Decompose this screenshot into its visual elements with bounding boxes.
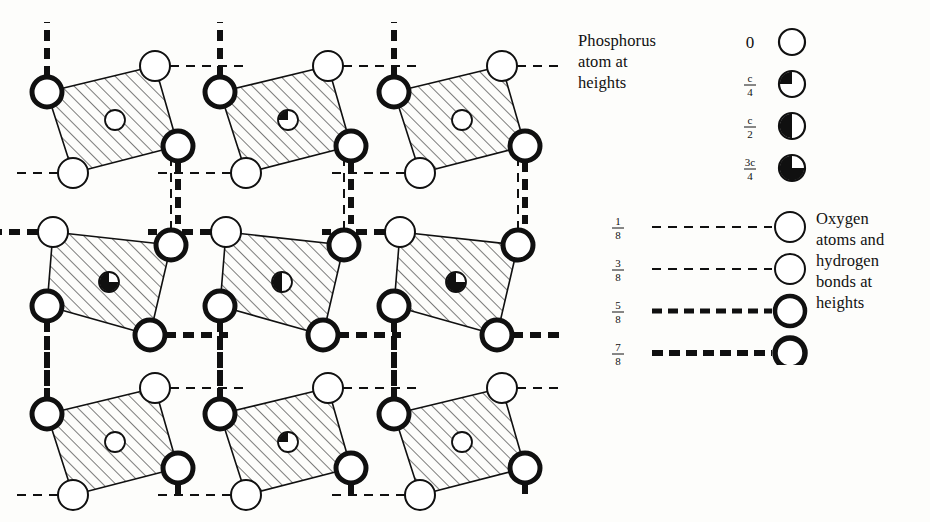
oxygen-caption-line-3: bonds at: [816, 271, 884, 292]
oxygen-atom-middle-right-bl: [379, 291, 409, 321]
oxygen-legend-height-num-3: 7: [615, 341, 621, 353]
atoms-layer: [32, 51, 540, 510]
phosphorus-legend-symbol-fill-1: [780, 72, 792, 84]
oxygen-atom-middle-right-br: [482, 320, 512, 350]
phosphorus-atom-top-left: [105, 110, 125, 130]
phosphorus-legend-height-0: 0: [746, 33, 755, 52]
oxygen-atom-top-right-tl: [379, 77, 409, 107]
oxygen-legend-symbol-1: [775, 254, 805, 284]
oxygen-atom-middle-left-bl: [32, 291, 62, 321]
phosphorus-legend-height-num-2: c: [748, 114, 753, 126]
oxygen-caption-line-4: heights: [816, 292, 884, 313]
oxygen-atom-bottom-left-bl: [58, 480, 88, 510]
oxygen-atom-top-left-bl: [58, 158, 88, 188]
oxygen-atom-bottom-right-br: [510, 453, 540, 483]
oxygen-atom-middle-left-tl: [38, 217, 68, 247]
oxygen-legend-symbol-0: [775, 212, 805, 242]
oxygen-atom-middle-center-tr: [329, 230, 359, 260]
phosphorus-legend-caption: Phosphorus atom at heights: [578, 30, 656, 93]
oxygen-atom-top-center-tl: [205, 77, 235, 107]
oxygen-caption-line-2: hydrogen: [816, 250, 884, 271]
oxygen-atom-top-right-bl: [405, 158, 435, 188]
oxygen-atom-top-center-tr: [313, 51, 343, 81]
phosphorus-atom-top-right: [452, 110, 472, 130]
oxygen-atom-middle-center-tl: [211, 217, 241, 247]
oxygen-atom-bottom-left-br: [163, 453, 193, 483]
oxygen-atom-top-left-tl: [32, 77, 62, 107]
oxygen-caption-line-1: atoms and: [816, 229, 884, 250]
oxygen-legend: Oxygen atoms and hydrogen bonds at heigh…: [816, 208, 884, 314]
oxygen-atom-top-center-bl: [231, 158, 261, 188]
oxygen-atom-top-left-br: [163, 131, 193, 161]
oxygen-atom-bottom-center-br: [336, 453, 366, 483]
oxygen-atom-middle-left-tr: [156, 230, 186, 260]
oxygen-atom-top-right-tr: [487, 51, 517, 81]
oxygen-atom-middle-center-bl: [205, 291, 235, 321]
oxygen-legend-height-den-1: 8: [615, 271, 621, 283]
figure-root: Phosphorus atom at heights 0c4c23c4 1838…: [0, 0, 930, 522]
oxygen-legend-caption: Oxygen atoms and hydrogen bonds at heigh…: [816, 208, 884, 314]
oxygen-atom-top-left-tr: [140, 51, 170, 81]
oxygen-legend-height-num-0: 1: [615, 215, 621, 227]
oxygen-atom-bottom-right-tr: [487, 373, 517, 403]
phosphorus-legend-height-num-3: 3c: [745, 156, 756, 168]
oxygen-atom-middle-right-tr: [503, 230, 533, 260]
phosphorus-legend-height-den-2: 2: [747, 128, 753, 140]
phosphorus-legend-symbols: 0c4c23c4: [720, 22, 840, 197]
oxygen-legend-height-num-2: 5: [615, 299, 621, 311]
oxygen-atom-bottom-right-tl: [379, 399, 409, 429]
oxygen-legend-symbols: 18385878: [600, 205, 830, 365]
oxygen-legend-symbol-2: [775, 296, 805, 326]
oxygen-legend-height-num-1: 3: [615, 257, 621, 269]
phosphorus-atom-bottom-left: [105, 432, 125, 452]
oxygen-atom-bottom-center-bl: [231, 480, 261, 510]
oxygen-atom-top-center-br: [336, 131, 366, 161]
oxygen-atom-bottom-left-tl: [32, 399, 62, 429]
oxygen-atom-top-right-br: [510, 131, 540, 161]
phosphorus-legend: Phosphorus atom at heights: [578, 30, 656, 93]
phosphorus-atom-bottom-right: [452, 432, 472, 452]
oxygen-atom-bottom-right-bl: [405, 480, 435, 510]
oxygen-atom-bottom-center-tl: [205, 399, 235, 429]
crystal-structure-diagram: [0, 0, 560, 522]
oxygen-legend-symbol-3: [775, 338, 805, 365]
oxygen-atom-middle-center-br: [308, 320, 338, 350]
phosphorus-caption-line-2: heights: [578, 72, 656, 93]
oxygen-caption-line-0: Oxygen: [816, 208, 884, 229]
oxygen-atom-middle-left-br: [135, 320, 165, 350]
oxygen-legend-height-den-2: 8: [615, 313, 621, 325]
oxygen-atom-bottom-left-tr: [140, 373, 170, 403]
phosphorus-legend-height-num-1: c: [748, 72, 753, 84]
oxygen-atom-bottom-center-tr: [313, 373, 343, 403]
oxygen-legend-height-den-0: 8: [615, 229, 621, 241]
oxygen-atom-middle-right-tl: [385, 217, 415, 247]
phosphorus-legend-height-den-3: 4: [747, 170, 753, 182]
oxygen-legend-height-den-3: 8: [615, 355, 621, 365]
phosphorus-caption-line-1: atom at: [578, 51, 656, 72]
phosphorus-legend-symbol-0: [779, 29, 805, 55]
phosphorus-legend-height-den-1: 4: [747, 86, 753, 98]
phosphorus-caption-line-0: Phosphorus: [578, 30, 656, 51]
